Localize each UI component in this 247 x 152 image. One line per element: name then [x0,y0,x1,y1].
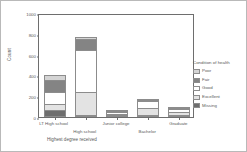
legend-item-label: Fair [202,78,210,82]
x-axis-title: Highest degree received [47,137,97,142]
y-axis-tick-mark [37,35,40,36]
bar-segment-fair[interactable] [44,80,66,92]
legend-swatch-icon [193,95,200,100]
y-axis-title: Count [7,48,12,61]
bar-segment-fair[interactable] [75,39,97,50]
legend-item-missing[interactable]: Missing [193,103,245,108]
bar-segment-excellent[interactable] [44,104,66,111]
chart-legend: Condition of health PoorFairGoodExcellen… [193,61,245,112]
legend-item-label: Poor [202,69,211,73]
x-axis-tick-mark [148,117,149,120]
legend-item-list: PoorFairGoodExcellentMissing [193,69,245,108]
y-axis-tick-mark [37,77,40,78]
bar-segment-good[interactable] [75,50,97,92]
legend-swatch-icon [193,78,200,83]
legend-item-excellent[interactable]: Excellent [193,95,245,100]
legend-swatch-icon [193,103,200,108]
y-axis-tick-mark [37,98,40,99]
chart-figure: Count 02004006008001000 Highest degree r… [0,0,247,152]
bar-segment-excellent[interactable] [137,108,159,115]
x-axis-tick-mark [179,117,180,120]
legend-item-fair[interactable]: Fair [193,78,245,83]
plot-frame: 02004006008001000 [38,14,194,118]
legend-item-label: Missing [202,104,217,108]
y-axis-tick-mark [37,15,40,16]
x-axis-tick-label: High school [73,130,96,134]
bar-segment-good[interactable] [44,92,66,103]
legend-item-poor[interactable]: Poor [193,69,245,74]
legend-title: Condition of health [193,61,245,65]
bar-lt-high-school[interactable] [44,75,66,117]
legend-swatch-icon [193,69,200,74]
x-axis-tick-mark [55,117,56,120]
bar-bachelor[interactable] [137,99,159,117]
legend-swatch-icon [193,86,200,91]
x-axis-tick-label: LT High school [39,122,68,126]
legend-item-good[interactable]: Good [193,86,245,91]
bar-segment-missing[interactable] [44,110,66,117]
bar-graduate[interactable] [168,107,190,117]
x-axis-tick-label: Junior college [102,122,129,126]
bar-junior-college[interactable] [106,110,128,117]
x-axis-tick-label: Graduate [169,122,187,126]
y-axis-tick-mark [37,56,40,57]
x-axis-tick-mark [86,117,87,120]
bar-high-school[interactable] [75,37,97,117]
legend-item-label: Excellent [202,95,220,99]
x-axis-tick-label: Bachelor [139,130,156,134]
bar-segment-excellent[interactable] [75,92,97,115]
legend-item-label: Good [202,86,213,90]
plot-area [39,15,193,117]
x-axis-tick-mark [117,117,118,120]
y-axis-tick-mark [37,119,40,120]
